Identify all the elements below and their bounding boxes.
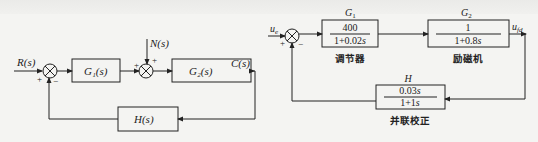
h-label: H(s) [133,113,154,126]
g1-numerator: 400 [343,22,358,33]
g2-name: G2 [461,7,472,20]
sum2-plus-sign-top: + [152,55,157,65]
feedback-return [49,78,118,119]
input-label: R(s) [16,56,36,69]
feedback-return-right [292,43,376,101]
g2-numerator: 1 [466,22,471,33]
summing-junction-2 [139,64,153,78]
block-diagrams: R(s) + − G₁(s) + + N(s) G₂(s) C(s) H(s) … [0,0,538,142]
h-name: H [403,73,412,84]
g2-label: G₂(s) [189,65,213,78]
exciter-caption: 励磁机 [453,53,483,64]
output-label: C(s) [231,57,250,70]
sum-minus-sign-right: − [298,39,303,49]
regulator-caption: 调节器 [335,53,365,64]
parallel-correction-caption: 并联校正 [390,115,430,126]
sum1-plus-sign: + [37,74,42,84]
sum1-minus-sign: − [53,76,58,86]
output-label-right: ufd [512,21,523,34]
g1-name: G1 [345,7,356,20]
feedback-path [178,71,255,119]
g1-denominator: 1+0.02s [334,35,366,46]
h-denominator: 1+1s [400,97,420,108]
right-block-diagram [268,20,526,109]
summing-junction-right [285,29,299,43]
disturbance-label: N(s) [149,37,169,50]
right-labels: ue + − G1 400 1+0.02s 调节器 G2 1 1+0.8s 励磁… [270,7,523,126]
g2-denominator: 1+0.8s [454,35,481,46]
g1-label: G₁(s) [84,65,108,78]
h-numerator: 0.03s [399,85,421,96]
sum2-plus-sign-left: + [134,60,139,70]
sum-plus-sign-right: + [280,38,285,48]
input-label-right: ue [270,23,278,36]
